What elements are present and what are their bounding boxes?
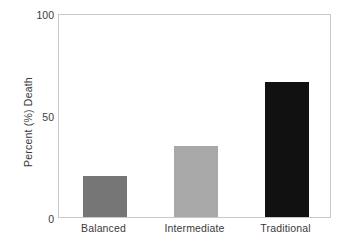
y-axis-tick-labels: 100 50 0	[12, 0, 54, 250]
x-label-traditional: Traditional	[260, 222, 310, 234]
y-tick-label-0: 0	[14, 214, 54, 225]
plot-area	[58, 14, 331, 218]
x-label-intermediate: Intermediate	[164, 222, 224, 234]
bar-chart: Percent (%) Death 100 50 0 BalancedInter…	[0, 0, 343, 250]
y-tick-label-100: 100	[14, 10, 54, 21]
bar-intermediate	[174, 146, 218, 217]
bar-traditional	[265, 82, 309, 217]
x-axis-category-labels: BalancedIntermediateTraditional	[58, 222, 331, 244]
bars-layer	[59, 15, 330, 217]
bar-balanced	[83, 176, 127, 217]
y-tick-label-50: 50	[14, 112, 54, 123]
x-label-balanced: Balanced	[81, 222, 126, 234]
